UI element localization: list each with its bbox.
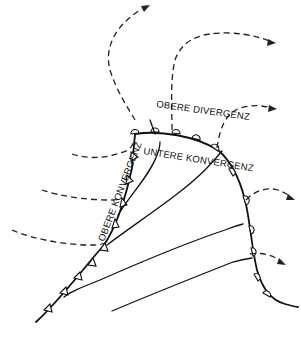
arrowhead-icon <box>141 5 150 12</box>
label-upper-divergence: OBERE DIVERGENZ <box>156 98 251 122</box>
warm-front-semicircle-icon <box>131 129 139 134</box>
cold-front-triangle-icon <box>44 304 52 312</box>
diagram-canvas: OBERE DIVERGENZ UNTERE KONVERGENZ OBERE … <box>0 0 301 340</box>
warm-front-semicircle-icon <box>151 128 159 132</box>
warm-front-semicircle-icon <box>249 226 254 234</box>
cold-front-triangle-icon <box>74 272 82 280</box>
upper-level-flow-lines <box>12 5 295 265</box>
arrowhead-icon <box>277 258 286 265</box>
warm-front-semicircle-icon <box>254 273 260 281</box>
warm-front-semicircle-icon <box>172 129 180 134</box>
warm-front-semicircle-icon <box>263 291 271 297</box>
upper-level-streamline <box>72 134 135 157</box>
cold-front-line <box>36 134 135 322</box>
label-lower-convergence: UNTERE KONVERGENZ <box>143 145 255 173</box>
arrowhead-icon <box>268 105 277 112</box>
upper-level-streamline <box>108 9 142 120</box>
upper-level-streamline <box>12 230 105 245</box>
arrowhead-icon <box>267 39 276 46</box>
upper-level-streamline <box>246 189 292 200</box>
warm-front-semicircle-icon <box>251 248 256 256</box>
cold-front-triangle-icon <box>60 287 68 295</box>
